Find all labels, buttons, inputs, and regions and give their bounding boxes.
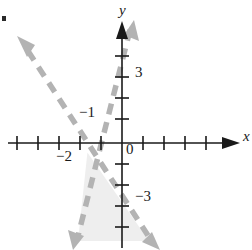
y-tick-label-neg3: −3 [135, 188, 151, 205]
graph-figure: y x 3 −3 −1 −2 0 [0, 0, 252, 250]
x-tick-label-neg1: −1 [79, 104, 95, 121]
x-tick-label-neg2: −2 [56, 148, 72, 165]
x-axis [8, 136, 240, 150]
coordinate-plane-svg [0, 0, 252, 250]
y-axis-label: y [119, 2, 126, 19]
y-tick-label-3: 3 [135, 64, 143, 81]
origin-label: 0 [126, 141, 134, 158]
x-axis-label: x [243, 128, 250, 145]
